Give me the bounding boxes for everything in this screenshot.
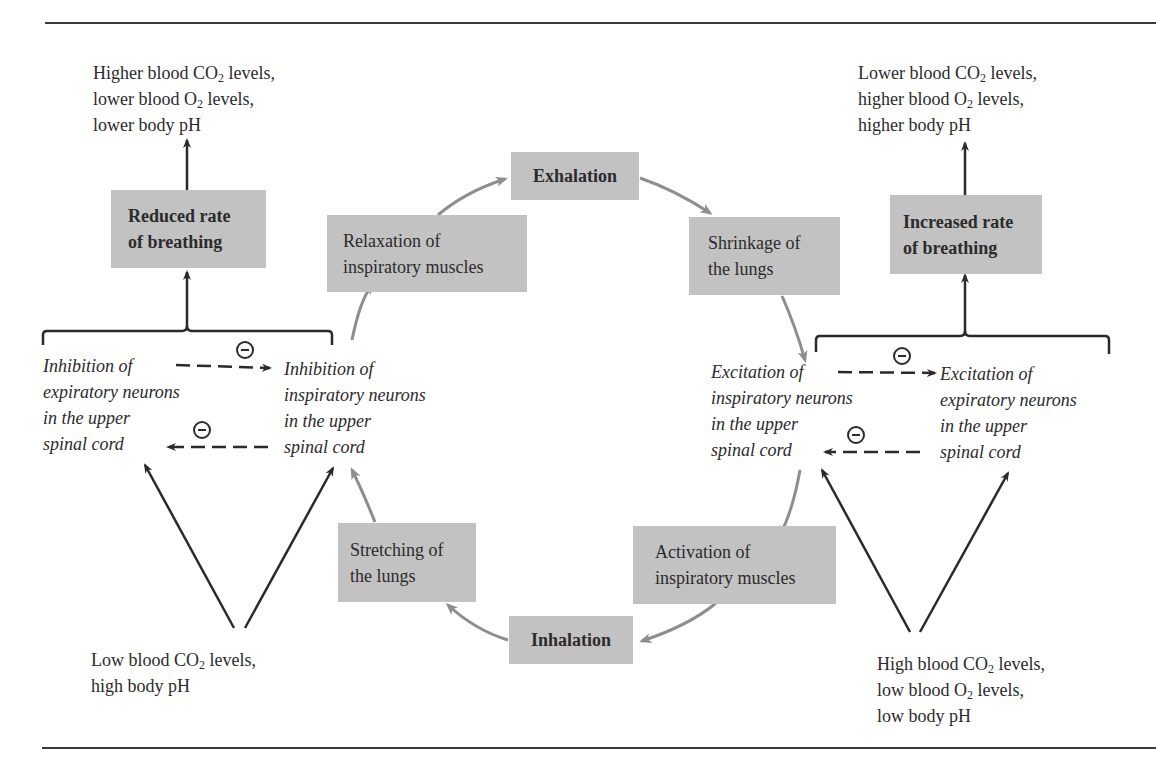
right-outcome-line3: higher body pH: [858, 115, 971, 135]
increased-rate-line2: of breathing: [903, 235, 1013, 261]
right-neuron-b-line2: expiratory neurons: [940, 387, 1077, 413]
relaxation-line2: inspiratory muscles: [343, 254, 483, 280]
inhibit-symbol-left-bottom: [193, 421, 211, 439]
right-neuron-a-line2: inspiratory neurons: [711, 385, 853, 411]
left-neuron-b: Inhibition ofinspiratory neuronsin the u…: [284, 356, 426, 460]
right-stimulus-line2-post: levels,: [973, 680, 1024, 700]
inhibit-symbol-left-top: [236, 341, 254, 359]
left-neuron-a-line3: in the upper: [43, 405, 180, 431]
left-neuron-b-line3: in the upper: [284, 408, 426, 434]
left-neuron-a-line2: expiratory neurons: [43, 379, 180, 405]
right-outcome-line2: higher blood O: [858, 89, 967, 109]
stretching-box: Stretching ofthe lungs: [338, 523, 476, 602]
left-stimulus-line2: high body pH: [91, 676, 190, 696]
right-stimulus-line3: low body pH: [877, 706, 971, 726]
left-outcome-line3: lower body pH: [93, 115, 201, 135]
right-outcome-line2-post: levels,: [973, 89, 1024, 109]
reduced-rate-box: Reduced rateof breathing: [111, 190, 266, 268]
right-stimulus-line1-post: levels,: [994, 654, 1045, 674]
inhalation-label: Inhalation: [531, 627, 611, 653]
shrinkage-line2: the lungs: [708, 256, 800, 282]
activation-line1: Activation of: [655, 539, 795, 565]
increased-rate-line1: Increased rate: [903, 209, 1013, 235]
inhibit-symbol-right-top: [893, 347, 911, 365]
right-neuron-a: Excitation ofinspiratory neuronsin the u…: [711, 359, 853, 463]
right-neuron-b-line1: Excitation of: [940, 361, 1077, 387]
left-outcome-line2-post: levels,: [203, 89, 254, 109]
stretching-line1: Stretching of: [350, 537, 443, 563]
right-stimulus-text: High blood CO2 levels, low blood O2 leve…: [877, 651, 1045, 729]
reduced-rate-line1: Reduced rate: [128, 203, 230, 229]
left-neuron-a: Inhibition ofexpiratory neuronsin the up…: [43, 353, 180, 457]
right-neuron-a-line3: in the upper: [711, 411, 853, 437]
left-outcome-line1: Higher blood CO: [93, 63, 218, 83]
left-neuron-b-line4: spinal cord: [284, 434, 426, 460]
inhalation-box: Inhalation: [509, 616, 633, 664]
left-neuron-a-line1: Inhibition of: [43, 353, 180, 379]
right-outcome-line1: Lower blood CO: [858, 63, 980, 83]
left-stimulus-text: Low blood CO2 levels, high body pH: [91, 647, 256, 699]
left-neuron-b-line2: inspiratory neurons: [284, 382, 426, 408]
right-neuron-b-line4: spinal cord: [940, 439, 1077, 465]
right-outcome-line1-post: levels,: [986, 63, 1037, 83]
right-neuron-a-line1: Excitation of: [711, 359, 853, 385]
shrinkage-box: Shrinkage ofthe lungs: [689, 217, 840, 295]
exhalation-label: Exhalation: [533, 163, 617, 189]
activation-box: Activation ofinspiratory muscles: [633, 526, 836, 604]
left-stimulus-line1-post: levels,: [205, 650, 256, 670]
right-stimulus-line2: low blood O: [877, 680, 967, 700]
left-stimulus-line1: Low blood CO: [91, 650, 199, 670]
left-outcome-text: Higher blood CO2 levels, lower blood O2 …: [93, 60, 275, 138]
left-outcome-line1-post: levels,: [224, 63, 275, 83]
left-neuron-b-line1: Inhibition of: [284, 356, 426, 382]
stretching-line2: the lungs: [350, 563, 443, 589]
reduced-rate-line2: of breathing: [128, 229, 230, 255]
right-neuron-b-line3: in the upper: [940, 413, 1077, 439]
right-outcome-text: Lower blood CO2 levels, higher blood O2 …: [858, 60, 1037, 138]
right-neuron-a-line4: spinal cord: [711, 437, 853, 463]
right-stimulus-line1: High blood CO: [877, 654, 988, 674]
right-neuron-b: Excitation ofexpiratory neuronsin the up…: [940, 361, 1077, 465]
shrinkage-line1: Shrinkage of: [708, 230, 800, 256]
activation-line2: inspiratory muscles: [655, 565, 795, 591]
relaxation-line1: Relaxation of: [343, 228, 483, 254]
relaxation-box: Relaxation ofinspiratory muscles: [327, 215, 527, 292]
exhalation-box: Exhalation: [511, 152, 639, 200]
left-outcome-line2: lower blood O: [93, 89, 197, 109]
increased-rate-box: Increased rateof breathing: [890, 195, 1042, 274]
left-neuron-a-line4: spinal cord: [43, 431, 180, 457]
